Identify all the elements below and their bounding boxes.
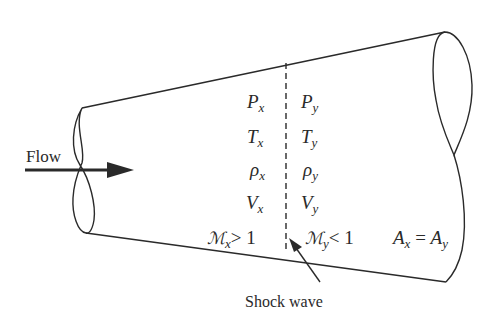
duct-bottom-wall — [86, 233, 446, 282]
upstream-mach: ℳx> 1 — [207, 228, 256, 250]
flow-arrow-head — [107, 162, 134, 178]
outlet-lower-curve — [446, 155, 464, 282]
downstream-pressure: Py — [301, 92, 318, 114]
shock-wave-label: Shock wave — [245, 293, 323, 311]
upstream-velocity: Vx — [246, 193, 263, 215]
upstream-density: ρx — [250, 160, 265, 182]
duct-diagram — [0, 0, 495, 327]
downstream-density: ρy — [303, 160, 318, 182]
flow-label: Flow — [26, 147, 61, 167]
downstream-velocity: Vy — [301, 193, 318, 215]
area-equality: Ax = Ay — [393, 228, 448, 250]
downstream-mach: ℳy< 1 — [305, 228, 354, 250]
downstream-temperature: Ty — [301, 127, 317, 149]
upstream-temperature: Tx — [247, 127, 263, 149]
upstream-pressure: Px — [247, 92, 264, 114]
outlet-section — [433, 32, 472, 155]
shock-pointer-head — [289, 238, 302, 252]
